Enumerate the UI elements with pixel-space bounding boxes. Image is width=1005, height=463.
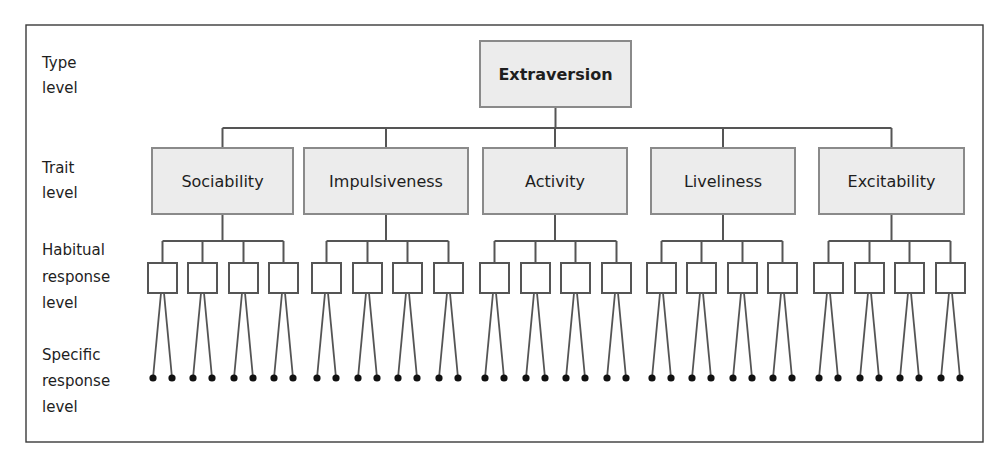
specific-response-dot (413, 374, 420, 381)
specific-response-dot (289, 374, 296, 381)
specific-response-dot (856, 374, 863, 381)
level-label-line: response (42, 268, 110, 286)
specific-response-dot (313, 374, 320, 381)
specific-response-dot (270, 374, 277, 381)
specific-response-dot (875, 374, 882, 381)
specific-response-dot (937, 374, 944, 381)
trait-label: Excitability (848, 172, 936, 191)
specific-response-dot (481, 374, 488, 381)
specific-response-dot (373, 374, 380, 381)
level-label-line: Habitual (42, 241, 105, 259)
habitual-response-box (353, 263, 382, 293)
specific-response-dot (230, 374, 237, 381)
specific-response-dot (603, 374, 610, 381)
level-label-line: level (42, 184, 78, 202)
specific-response-dot (562, 374, 569, 381)
specific-response-dot (332, 374, 339, 381)
specific-response-dot (189, 374, 196, 381)
level-label-line: Specific (42, 346, 100, 364)
specific-response-dot (394, 374, 401, 381)
habitual-response-box (687, 263, 716, 293)
habitual-response-box (936, 263, 965, 293)
habitual-response-box (393, 263, 422, 293)
specific-response-dot (500, 374, 507, 381)
type-level-node: Extraversion (480, 41, 631, 107)
specific-response-dot (435, 374, 442, 381)
habitual-response-box (647, 263, 676, 293)
specific-response-dot (622, 374, 629, 381)
trait-node-activity: Activity (483, 148, 627, 214)
extraversion-hierarchy-diagram: TypelevelTraitlevelHabitualresponselevel… (0, 0, 1005, 463)
trait-label: Sociability (181, 172, 263, 191)
trait-node-sociability: Sociability (152, 148, 293, 214)
habitual-response-box (728, 263, 757, 293)
specific-response-dot (168, 374, 175, 381)
habitual-response-box (602, 263, 631, 293)
habitual-response-box (434, 263, 463, 293)
trait-label: Activity (525, 172, 585, 191)
type-label: Extraversion (498, 65, 612, 84)
habitual-response-box (895, 263, 924, 293)
specific-response-dot (667, 374, 674, 381)
level-label-line: response (42, 372, 110, 390)
habitual-response-box (188, 263, 217, 293)
specific-response-dot (896, 374, 903, 381)
specific-response-dot (149, 374, 156, 381)
specific-response-dot (815, 374, 822, 381)
habitual-response-box (148, 263, 177, 293)
habitual-response-box (480, 263, 509, 293)
level-label-line: level (42, 79, 78, 97)
trait-label: Impulsiveness (329, 172, 443, 191)
trait-label: Liveliness (684, 172, 762, 191)
specific-response-dot (729, 374, 736, 381)
specific-response-dot (748, 374, 755, 381)
habitual-response-box (561, 263, 590, 293)
specific-response-dot (834, 374, 841, 381)
specific-response-dot (208, 374, 215, 381)
trait-node-excitability: Excitability (819, 148, 964, 214)
habitual-response-box (521, 263, 550, 293)
trait-node-impulsiveness: Impulsiveness (304, 148, 468, 214)
trait-level-nodes: SociabilityImpulsivenessActivityLiveline… (152, 148, 964, 214)
specific-response-dot (581, 374, 588, 381)
specific-response-dot (688, 374, 695, 381)
specific-response-dot (915, 374, 922, 381)
level-label-line: level (42, 294, 78, 312)
level-label-line: Trait (41, 159, 74, 177)
specific-response-dot (454, 374, 461, 381)
level-label-line: level (42, 398, 78, 416)
specific-response-dot (249, 374, 256, 381)
specific-response-dot (648, 374, 655, 381)
specific-response-dot (788, 374, 795, 381)
specific-response-dot (522, 374, 529, 381)
habitual-response-box (855, 263, 884, 293)
level-label-line: Type (41, 54, 76, 72)
habitual-response-box (768, 263, 797, 293)
trait-node-liveliness: Liveliness (651, 148, 795, 214)
habitual-response-box (269, 263, 298, 293)
habitual-response-box (229, 263, 258, 293)
specific-response-dot (956, 374, 963, 381)
specific-response-dot (354, 374, 361, 381)
specific-response-dot (707, 374, 714, 381)
habitual-response-box (814, 263, 843, 293)
specific-response-dot (541, 374, 548, 381)
habitual-response-box (312, 263, 341, 293)
specific-response-dot (769, 374, 776, 381)
